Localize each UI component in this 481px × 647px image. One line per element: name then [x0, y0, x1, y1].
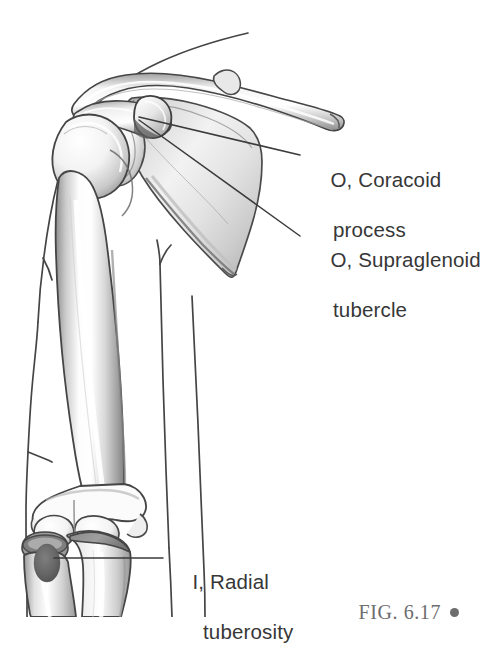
annotation-supraglenoid-tubercle: O, Supraglenoid tubercle — [307, 222, 481, 372]
figure-caption: FIG. 6.17 — [336, 578, 459, 647]
annotation-coracoid-line1: O, Coracoid — [330, 168, 441, 191]
humerus — [52, 115, 132, 489]
annotation-radial-tuberosity: I, Radial tuberosity — [169, 544, 293, 647]
figure-caption-text: FIG. 6.17 — [358, 601, 441, 623]
caption-bullet-dot — [450, 608, 459, 617]
annotation-supraglenoid-line2: tubercle — [307, 297, 481, 322]
annotation-radial-line2: tuberosity — [169, 619, 293, 644]
ulna — [67, 531, 131, 617]
radius — [22, 532, 76, 617]
annotation-radial-line1: I, Radial — [192, 570, 269, 593]
annotation-supraglenoid-line1: O, Supraglenoid — [330, 248, 480, 271]
